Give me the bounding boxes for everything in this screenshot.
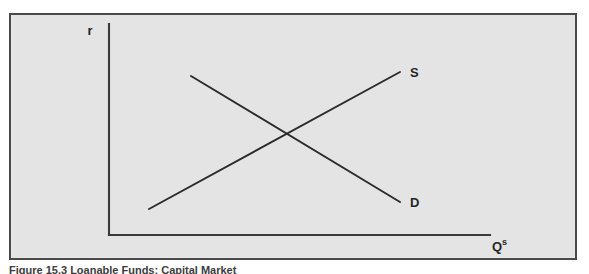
figure-caption: Figure 15.3 Loanable Funds: Capital Mark… (9, 264, 439, 274)
axes-group (109, 24, 490, 235)
x-axis-label-base: Q (492, 239, 502, 254)
x-axis-label-superscript: s (502, 237, 507, 247)
supply-curve-label: S (410, 65, 419, 80)
demand-curve-label: D (410, 195, 419, 210)
figure-panel: r Q s S D (9, 13, 577, 260)
demand-curve (191, 76, 400, 202)
x-axis-label: Q s (492, 237, 507, 254)
supply-demand-plot: r Q s S D (11, 15, 577, 260)
figure-root: r Q s S D Figure 15.3 Loanable Funds: Ca… (0, 0, 589, 274)
y-axis-label: r (87, 23, 92, 38)
supply-curve (149, 72, 400, 209)
